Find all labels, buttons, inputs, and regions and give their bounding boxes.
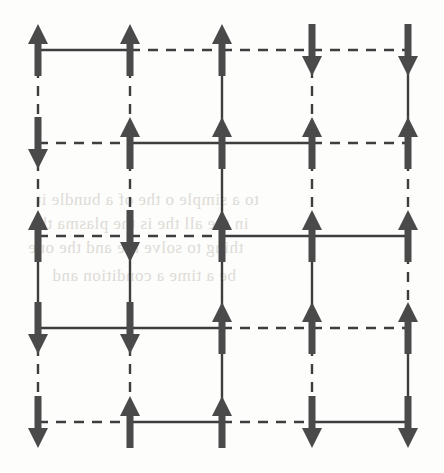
spin-arrow-r1-c5[interactable]	[398, 24, 418, 76]
spin-lattice-figure: to a simple o the of a bundle itin the a…	[0, 0, 444, 473]
spin-arrow-r2-c5[interactable]	[398, 117, 418, 169]
lattice-canvas	[0, 0, 444, 473]
spin-arrow-r4-c5[interactable]	[398, 302, 418, 354]
